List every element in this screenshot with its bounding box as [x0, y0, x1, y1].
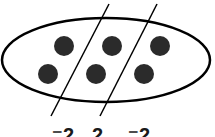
group-label-2: 2 [92, 125, 103, 137]
group-label-1: ⁻2 [52, 125, 74, 137]
divider-line-1 [51, 4, 109, 116]
dot-5 [86, 64, 106, 84]
dot-6 [134, 64, 154, 84]
dot-4 [38, 64, 58, 84]
dots-group [38, 36, 170, 84]
groups-diagram [0, 0, 215, 137]
dot-3 [150, 36, 170, 56]
group-label-3: ⁻2 [128, 125, 150, 137]
dot-1 [54, 36, 74, 56]
set-ellipse [2, 18, 210, 102]
dot-2 [102, 36, 122, 56]
